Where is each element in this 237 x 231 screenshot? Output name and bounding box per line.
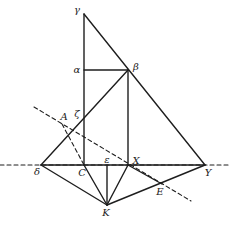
geometric-figure: γ α β ζ A δ C ε X Y E K (0, 0, 237, 231)
label-X: X (132, 156, 139, 166)
label-delta: δ (34, 167, 40, 177)
label-A: A (60, 112, 67, 122)
label-zeta: ζ (74, 109, 79, 119)
segment-gamma-Y (84, 14, 205, 165)
label-E: E (156, 187, 163, 197)
label-Y: Y (205, 168, 212, 178)
segment-delta-K (41, 165, 107, 205)
label-K: K (102, 208, 109, 218)
oblique-line-through-A-X-E (34, 107, 191, 201)
segment-X-K (107, 165, 128, 205)
segment-C-K (84, 165, 107, 205)
label-gamma: γ (74, 5, 80, 15)
label-beta: β (133, 62, 139, 72)
segment-X-E (128, 165, 162, 184)
label-epsilon: ε (104, 155, 109, 165)
segment-K-Y (107, 165, 205, 205)
label-C: C (78, 168, 86, 178)
label-alpha: α (74, 65, 81, 75)
figure-lines (0, 0, 237, 231)
